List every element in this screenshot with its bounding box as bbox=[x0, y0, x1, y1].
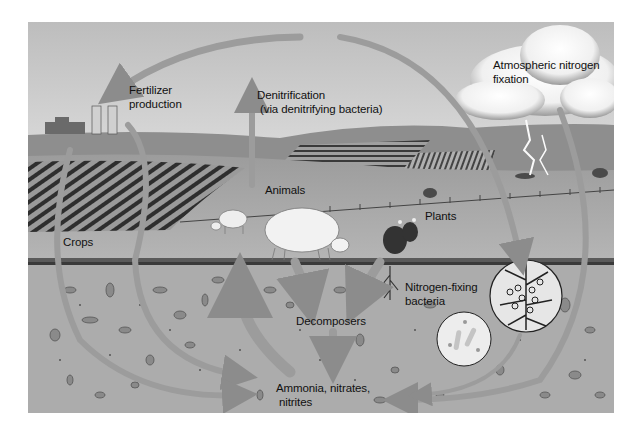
label-ammonia-nitrates-nitrites: Ammonia, nitrates, nitrites bbox=[276, 381, 370, 409]
label-plants: Plants bbox=[425, 209, 456, 223]
label-denitrification: Denitrification (via denitrifying bacter… bbox=[257, 88, 383, 116]
bacteria-magnifier bbox=[437, 312, 491, 366]
label-fertilizer-production: Fertilizer production bbox=[129, 83, 182, 111]
label-line: fixation bbox=[493, 72, 600, 86]
label-line: Nitrogen-fixing bbox=[405, 280, 478, 294]
label-atmospheric-nitrogen-fixation: Atmospheric nitrogen fixation bbox=[493, 58, 600, 86]
label-animals: Animals bbox=[265, 183, 305, 197]
label-line: production bbox=[129, 97, 182, 111]
label-line: (via denitrifying bacteria) bbox=[257, 102, 383, 116]
label-line: nitrites bbox=[276, 395, 370, 409]
label-line: Atmospheric nitrogen bbox=[493, 58, 600, 72]
label-line: bacteria bbox=[405, 294, 478, 308]
label-line: Fertilizer bbox=[129, 83, 182, 97]
label-crops: Crops bbox=[63, 235, 93, 249]
label-decomposers: Decomposers bbox=[296, 314, 366, 328]
root-nodule-magnifier bbox=[490, 260, 562, 332]
label-line: Denitrification bbox=[257, 88, 383, 102]
label-line: Ammonia, nitrates, bbox=[276, 381, 370, 395]
label-nitrogen-fixing-bacteria: Nitrogen-fixing bacteria bbox=[405, 280, 478, 308]
